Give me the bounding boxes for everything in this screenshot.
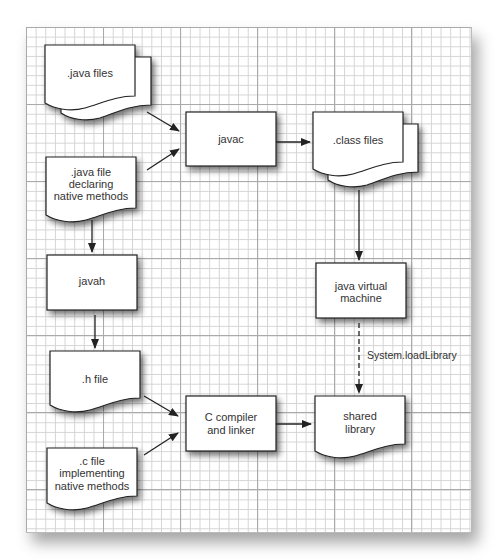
arrow-java-native-to-javac bbox=[147, 149, 179, 170]
java-file-native-label-line3: native methods bbox=[54, 190, 129, 202]
c-compiler-label-line1: C compiler bbox=[205, 411, 258, 423]
c-file-label-line3: native methods bbox=[55, 480, 130, 492]
node-java-files bbox=[45, 45, 151, 120]
shared-library-label-line2: library bbox=[345, 423, 375, 435]
c-file-label-line2: implementing bbox=[59, 467, 124, 479]
java-files-label: .java files bbox=[67, 67, 113, 79]
java-file-native-label-line2: declaring bbox=[69, 178, 114, 190]
jvm-label-line2: machine bbox=[340, 292, 382, 304]
arrow-c-file-to-c-compiler bbox=[144, 433, 178, 455]
java-file-native-label-line1: .java file bbox=[71, 166, 111, 178]
shared-library-label-line1: shared bbox=[343, 410, 377, 422]
c-compiler-label-line2: and linker bbox=[207, 424, 255, 436]
system-loadlibrary-label: System.loadLibrary bbox=[367, 349, 458, 361]
class-files-label: .class files bbox=[333, 134, 384, 146]
javah-label: javah bbox=[78, 275, 105, 287]
c-file-label-line1: .c file bbox=[79, 455, 105, 467]
javac-label: javac bbox=[217, 133, 244, 145]
jvm-label-line1: java virtual bbox=[334, 280, 388, 292]
h-file-label: .h file bbox=[82, 373, 108, 385]
flowchart: .java files .java file declaring native … bbox=[0, 0, 495, 559]
arrow-java-files-to-javac bbox=[147, 112, 179, 131]
node-class-files bbox=[313, 112, 418, 187]
diagram-canvas: .java files .java file declaring native … bbox=[0, 0, 495, 559]
arrow-h-file-to-c-compiler bbox=[144, 396, 178, 416]
